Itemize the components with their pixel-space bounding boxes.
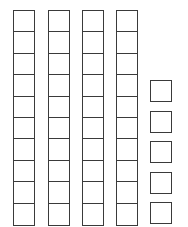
rod-cell (49, 118, 69, 139)
tens-rod-4 (116, 10, 138, 226)
rod-cell (49, 182, 69, 203)
rod-cell (117, 32, 137, 53)
unit-cube-2 (150, 111, 172, 133)
rod-cell (117, 204, 137, 225)
rod-cell (49, 161, 69, 182)
rod-cell (14, 54, 34, 75)
rod-cell (117, 54, 137, 75)
unit-cube-4 (150, 172, 172, 194)
rod-cell (14, 139, 34, 160)
rod-cell (117, 182, 137, 203)
unit-cube-1 (150, 80, 172, 102)
rod-cell (117, 139, 137, 160)
rod-cell (49, 32, 69, 53)
rod-cell (117, 97, 137, 118)
rod-cell (14, 32, 34, 53)
rod-cell (83, 32, 103, 53)
rod-cell (83, 161, 103, 182)
rod-cell (14, 11, 34, 32)
rod-cell (49, 97, 69, 118)
rod-cell (49, 11, 69, 32)
rod-cell (83, 97, 103, 118)
tens-rod-2 (48, 10, 70, 226)
unit-cube-5 (150, 202, 172, 224)
rod-cell (14, 118, 34, 139)
rod-cell (14, 161, 34, 182)
rod-cell (49, 204, 69, 225)
rod-cell (49, 54, 69, 75)
rod-cell (14, 204, 34, 225)
rod-cell (14, 75, 34, 96)
rod-cell (83, 54, 103, 75)
rod-cell (83, 139, 103, 160)
rod-cell (83, 75, 103, 96)
tens-rod-3 (82, 10, 104, 226)
rod-cell (49, 75, 69, 96)
rod-cell (83, 118, 103, 139)
rod-cell (14, 182, 34, 203)
rod-cell (117, 11, 137, 32)
rod-cell (49, 139, 69, 160)
rod-cell (117, 75, 137, 96)
rod-cell (117, 161, 137, 182)
rod-cell (117, 118, 137, 139)
tens-rod-1 (13, 10, 35, 226)
rod-cell (83, 204, 103, 225)
rod-cell (83, 11, 103, 32)
unit-cube-3 (150, 141, 172, 163)
rod-cell (83, 182, 103, 203)
rod-cell (14, 97, 34, 118)
